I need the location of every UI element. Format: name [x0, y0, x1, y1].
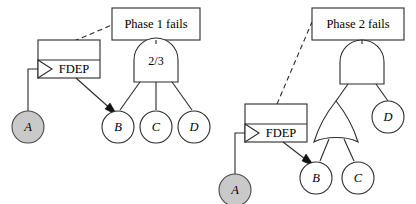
basic-event-d-phase1: D: [178, 111, 210, 143]
top-event-label-phase2: Phase 2 fails: [326, 17, 389, 31]
and-gate-shape: [340, 40, 384, 84]
fdep-label-phase1: FDEP: [59, 62, 90, 76]
basic-event-label-d-phase1: D: [188, 120, 198, 134]
and-gate-input-line-d: [376, 84, 388, 101]
dashed-link-phase2: [277, 22, 312, 104]
and-gate-phase2: [340, 40, 384, 84]
basic-event-c-phase2: C: [342, 162, 374, 194]
or-gate-input-line-b: [320, 139, 329, 161]
fdep-trigger-wire-phase1: [28, 69, 38, 113]
basic-event-label-d-phase2: D: [382, 110, 392, 124]
basic-event-label-c-phase2: C: [354, 171, 363, 185]
basic-event-label-a-phase2: A: [230, 183, 239, 197]
basic-event-label-c-phase1: C: [152, 120, 161, 134]
basic-event-label-b-phase2: B: [312, 171, 320, 185]
top-event-label-phase1: Phase 1 fails: [124, 17, 187, 31]
fdep-box-phase2: FDEP: [245, 104, 307, 142]
top-event-box-phase1: Phase 1 fails: [112, 8, 200, 40]
voting-gate-label: 2/3: [148, 54, 163, 68]
fdep-trigger-wire-phase2: [235, 133, 245, 176]
basic-event-b-phase1: B: [102, 111, 134, 143]
basic-event-a-phase2: A: [219, 174, 251, 204]
or-gate-shape: [314, 101, 358, 142]
basic-event-a-phase1: A: [12, 111, 44, 143]
fdep-box-phase1: FDEP: [38, 40, 100, 78]
top-event-box-phase2: Phase 2 fails: [312, 8, 404, 40]
gate1-input-line-d: [172, 82, 192, 110]
basic-event-d-phase2: D: [372, 101, 404, 133]
basic-event-c-phase1: C: [140, 111, 172, 143]
basic-event-label-b-phase1: B: [114, 120, 122, 134]
and-gate-input-line-or: [336, 84, 348, 101]
or-gate-phase2: [314, 101, 358, 142]
basic-event-b-phase2: B: [300, 162, 332, 194]
voting-gate-2of3: 2/3: [134, 38, 178, 82]
fault-tree-diagram: Phase 1 fails 2/3 FDEP A: [0, 0, 416, 204]
or-gate-input-line-c: [344, 139, 354, 161]
basic-event-label-a-phase1: A: [23, 120, 32, 134]
gate1-input-line-b: [120, 82, 140, 110]
fdep-label-phase2: FDEP: [266, 126, 297, 140]
dashed-link-phase1: [74, 25, 112, 41]
